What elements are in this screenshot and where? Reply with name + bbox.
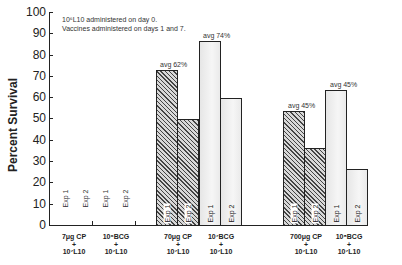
y-tick: [49, 33, 53, 34]
avg-label-700ug-cp: avg 45%: [288, 102, 315, 109]
y-tick-label: 90: [20, 27, 46, 39]
x-tick: [135, 221, 136, 225]
annotation-note-2: Vaccines administered on days 1 and 7.: [62, 25, 186, 32]
exp2-label: Exp 2: [228, 204, 235, 224]
y-tick-label: 40: [20, 134, 46, 146]
avg-label-70ug-cp: avg 62%: [160, 61, 187, 68]
category-10e6-bcg: 10⁶BCG + 10⁷L10: [86, 232, 146, 257]
y-tick-label: 50: [20, 112, 46, 124]
exp2-label: Exp 2: [354, 204, 361, 224]
exp1-label: Exp 1: [164, 204, 171, 224]
exp1-label: Exp 1: [207, 204, 214, 224]
bar-10e8-bcg-exp2: Exp 2: [346, 169, 368, 226]
x-tick: [92, 221, 93, 225]
y-tick: [49, 76, 53, 77]
category-line-2: 10⁷L10: [86, 247, 146, 257]
y-tick: [49, 97, 53, 98]
exp1-label: Exp 1: [291, 204, 298, 224]
exp2-label: Exp 2: [185, 204, 192, 224]
category-10e8-bcg: 10⁸BCG + 10⁷L10: [319, 232, 379, 257]
bar-700ug-cp-exp1: Exp 1: [283, 111, 305, 226]
category-line-2: 10⁷L10: [191, 247, 251, 257]
category-10e7-bcg: 10⁷BCG + 10⁷L10: [191, 232, 251, 257]
exp2-label: Exp 2: [82, 190, 89, 208]
y-tick: [49, 55, 53, 56]
y-tick-label: 30: [20, 155, 46, 167]
y-tick-label: 100: [20, 6, 46, 18]
y-tick-label: 0: [20, 219, 46, 231]
bar-10e7-bcg-exp1: Exp 1: [199, 41, 221, 226]
bar-70ug-cp-exp1: Exp 1: [156, 70, 178, 226]
y-tick: [49, 12, 53, 13]
y-axis-label: Percent Survival: [6, 70, 20, 180]
y-tick-label: 80: [20, 49, 46, 61]
bar-700ug-cp-exp2: Exp 2: [304, 148, 326, 226]
y-tick: [49, 182, 53, 183]
annotation-note-1: 10⁶L10 administered on day 0.: [62, 16, 157, 23]
bar-70ug-cp-exp2: Exp 2: [177, 119, 199, 226]
exp1-label: Exp 1: [333, 204, 340, 224]
y-tick-label: 10: [20, 198, 46, 210]
category-line-2: 10⁷L10: [319, 247, 379, 257]
exp2-label: Exp 2: [312, 204, 319, 224]
y-tick-label: 60: [20, 91, 46, 103]
y-tick: [49, 225, 53, 226]
bar-10e8-bcg-exp1: Exp 1: [325, 90, 347, 226]
avg-label-10e7-bcg: avg 74%: [203, 32, 230, 39]
y-tick: [49, 118, 53, 119]
y-tick: [49, 161, 53, 162]
exp2-label: Exp 2: [122, 190, 129, 208]
y-tick-label: 20: [20, 176, 46, 188]
avg-label-10e8-bcg: avg 45%: [330, 81, 357, 88]
exp1-label: Exp 1: [102, 190, 109, 208]
y-tick-label: 70: [20, 70, 46, 82]
bar-10e7-bcg-exp2: Exp 2: [220, 98, 242, 226]
y-tick: [49, 204, 53, 205]
y-tick: [49, 140, 53, 141]
exp1-label: Exp 1: [62, 190, 69, 208]
